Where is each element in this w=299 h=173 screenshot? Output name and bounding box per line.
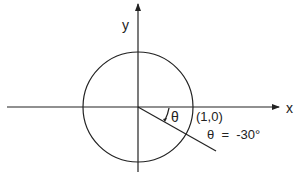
angle-value-label: θ = -30° [207,128,260,141]
diagram-graphics [0,0,299,173]
y-axis-label: y [122,18,129,32]
angle-arc-icon [165,108,169,120]
angle-theta-label: θ [171,110,179,124]
point-label: (1,0) [196,110,223,123]
unit-circle-diagram: y x θ (1,0) θ = -30° [0,0,299,173]
x-axis-label: x [286,101,293,115]
